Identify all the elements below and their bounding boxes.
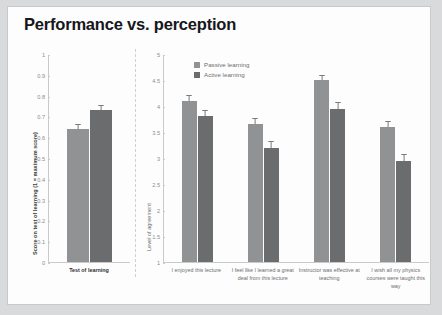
bar-passive-learning[interactable] xyxy=(182,101,197,262)
bar-active-learning[interactable] xyxy=(330,109,345,262)
page-title: Performance vs. perception xyxy=(24,15,236,34)
y-tick-label: 0.3 xyxy=(37,198,45,204)
error-bar-cap xyxy=(253,118,258,119)
slide-canvas: Performance vs. perception Passive learn… xyxy=(7,6,431,305)
bar-group xyxy=(230,55,296,262)
performance-category-labels: Test of learning xyxy=(48,267,130,275)
y-tick-label: 0.7 xyxy=(37,114,45,120)
y-tick-label: 0.4 xyxy=(37,177,45,183)
y-tick-label: 0 xyxy=(42,260,45,266)
bar-active-learning[interactable] xyxy=(396,161,411,262)
y-tick-label: 3 xyxy=(157,156,160,162)
y-tick-label: 0.9 xyxy=(37,73,45,79)
bar-active-learning[interactable] xyxy=(90,110,112,262)
performance-y-ticks: 00.10.20.30.40.50.60.70.80.91 xyxy=(26,55,48,263)
performance-bar-groups xyxy=(49,55,130,262)
perception-category-labels: I enjoyed this lectureI feel like I lear… xyxy=(163,267,429,290)
perception-y-ticks: 11.522.533.544.55 xyxy=(141,55,163,263)
bar-passive-learning[interactable] xyxy=(314,80,329,262)
y-tick-mark xyxy=(48,263,50,264)
y-tick-label: 0.2 xyxy=(37,218,45,224)
y-tick-label: 0.5 xyxy=(37,156,45,162)
error-bar-cap xyxy=(76,124,81,125)
y-tick-label: 2 xyxy=(157,208,160,214)
bar-group xyxy=(297,55,363,262)
error-bar-cap xyxy=(269,141,274,142)
perception-plot-area xyxy=(163,55,429,263)
error-bar-cap xyxy=(385,121,390,122)
y-tick-label: 4 xyxy=(157,104,160,110)
bar-passive-learning[interactable] xyxy=(248,124,263,262)
chart-perception: Level of agreement 11.522.533.544.55 xyxy=(141,55,429,263)
bar-passive-learning[interactable] xyxy=(67,129,89,262)
y-tick-label: 0.6 xyxy=(37,135,45,141)
bar-group xyxy=(164,55,230,262)
y-tick-mark xyxy=(163,263,165,264)
bar-active-learning[interactable] xyxy=(264,148,279,262)
bar-group xyxy=(363,55,429,262)
error-bar-cap xyxy=(203,110,208,111)
y-tick-label: 0.1 xyxy=(37,239,45,245)
y-tick-label: 1.5 xyxy=(152,234,160,240)
error-bar-cap xyxy=(99,105,104,106)
error-bar-cap xyxy=(401,154,406,155)
category-label: Test of learning xyxy=(48,267,130,275)
error-bar-cap xyxy=(187,95,192,96)
chart-performance: Score on test of learning (1 = maximum s… xyxy=(26,55,130,263)
bar-active-learning[interactable] xyxy=(198,116,213,262)
panel-divider xyxy=(135,49,136,277)
performance-plot-area xyxy=(48,55,130,263)
perception-bar-groups xyxy=(164,55,429,262)
y-tick-label: 5 xyxy=(157,52,160,58)
category-label: I feel like I learned a great deal from … xyxy=(230,267,297,290)
y-tick-label: 1 xyxy=(42,52,45,58)
y-tick-label: 3.5 xyxy=(152,130,160,136)
y-tick-label: 2.5 xyxy=(152,182,160,188)
error-bar-cap xyxy=(335,102,340,103)
y-tick-label: 4.5 xyxy=(152,78,160,84)
error-bar-cap xyxy=(319,75,324,76)
category-label: I wish all my physics courses were taugh… xyxy=(363,267,430,290)
bar-passive-learning[interactable] xyxy=(380,127,395,262)
category-label: Instructor was effective at teaching xyxy=(296,267,363,290)
bar-group xyxy=(49,55,130,262)
category-label: I enjoyed this lecture xyxy=(163,267,230,290)
y-tick-label: 0.8 xyxy=(37,94,45,100)
y-tick-label: 1 xyxy=(157,260,160,266)
